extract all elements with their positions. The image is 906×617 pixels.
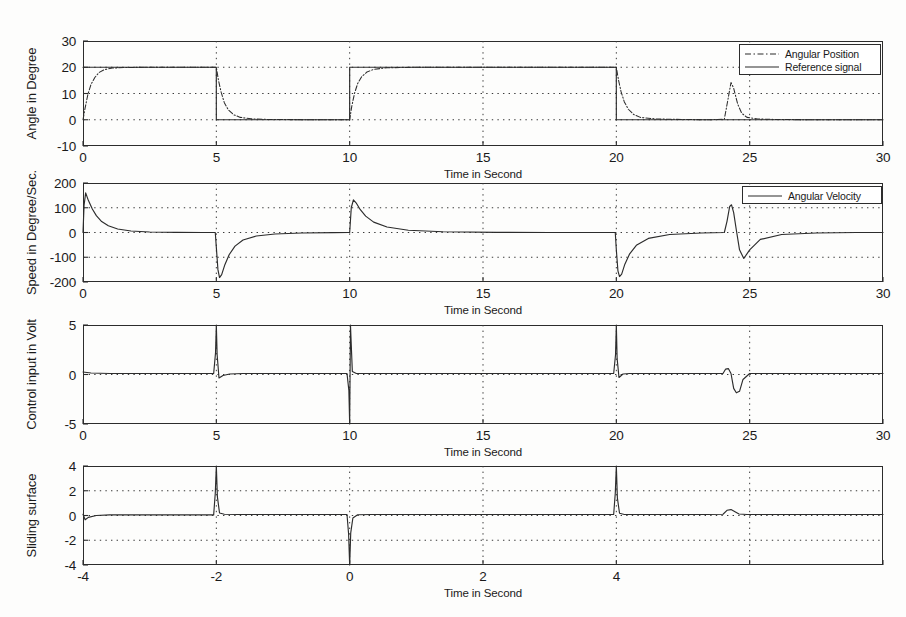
xlabel-angular-velocity: Time in Second	[444, 304, 522, 316]
xtick-label: 5	[213, 428, 220, 443]
legend-line-dashdot	[744, 49, 780, 59]
legend-entry: Reference signal	[744, 60, 875, 73]
xlabel-sliding-surface: Time in Second	[444, 587, 522, 599]
xlabel-control-input: Time in Second	[444, 446, 522, 458]
xtick-label: 0	[79, 286, 86, 301]
subplot-control-input	[83, 325, 883, 424]
legend-angular-velocity: Angular Velocity	[742, 186, 882, 204]
legend-entry: Angular Velocity	[747, 189, 876, 202]
legend-entry: Angular Position	[744, 47, 875, 60]
xtick-label: 15	[476, 286, 491, 301]
ylabel-sliding-surface: Sliding surface	[24, 421, 39, 610]
legend-label-angular-position: Angular Position	[785, 48, 859, 60]
xtick-label: -4	[77, 569, 89, 584]
figure-canvas: -100102030 051015202530 Angle in Degree …	[0, 0, 906, 617]
xtick-label: -2	[211, 569, 223, 584]
xtick-label: 30	[876, 286, 891, 301]
xtick-label: 4	[613, 569, 620, 584]
legend-label-angular-velocity: Angular Velocity	[788, 190, 861, 202]
xtick-label: 10	[342, 150, 357, 165]
xtick-label: 20	[609, 150, 624, 165]
xtick-label: 25	[742, 150, 757, 165]
xtick-label: 0	[346, 569, 353, 584]
xtick-label: 5	[213, 150, 220, 165]
legend-line-solid	[747, 191, 783, 201]
xtick-label: 30	[876, 150, 891, 165]
subplot-sliding-surface	[83, 466, 883, 565]
xtick-label: 2	[479, 569, 486, 584]
plot-area-sliding-surface	[83, 466, 883, 565]
xtick-label: 15	[476, 150, 491, 165]
xtick-label: 30	[876, 428, 891, 443]
xtick-label: 20	[609, 428, 624, 443]
xtick-label: 0	[79, 428, 86, 443]
xtick-label: 5	[213, 286, 220, 301]
xtick-label: 25	[742, 286, 757, 301]
plot-area-control-input	[83, 325, 883, 424]
legend-label-reference-signal: Reference signal	[785, 61, 861, 73]
xtick-label: 0	[79, 150, 86, 165]
xtick-label: 15	[476, 428, 491, 443]
xtick-label: 25	[742, 428, 757, 443]
xtick-label: 20	[609, 286, 624, 301]
xlabel-angular-position: Time in Second	[444, 168, 522, 180]
legend-angular-position: Angular Position Reference signal	[739, 44, 881, 75]
legend-line-solid	[744, 62, 780, 72]
xtick-label: 10	[342, 286, 357, 301]
xtick-label: 10	[342, 428, 357, 443]
